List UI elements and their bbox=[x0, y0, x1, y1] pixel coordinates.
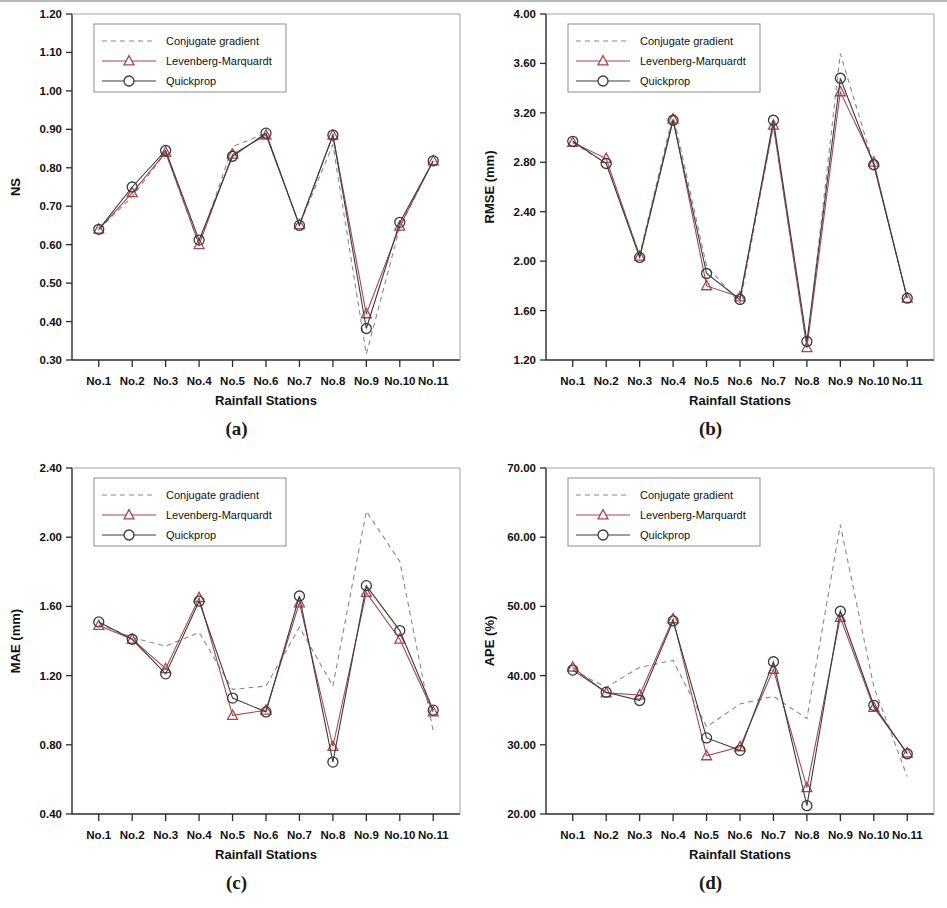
x-tick-label: No.9 bbox=[354, 829, 379, 841]
series-line-conjugate-gradient bbox=[573, 54, 907, 348]
x-tick-label: No.3 bbox=[153, 829, 178, 841]
x-tick-label: No.2 bbox=[120, 375, 145, 387]
x-tick-label: No.7 bbox=[287, 829, 312, 841]
x-tick-label: No.7 bbox=[761, 829, 786, 841]
y-tick-label: 0.40 bbox=[40, 808, 62, 820]
x-tick-label: No.6 bbox=[728, 375, 753, 387]
x-axis-title: Rainfall Stations bbox=[689, 847, 791, 862]
y-tick-label: 60.00 bbox=[507, 531, 536, 543]
legend-marker-circle-icon bbox=[598, 76, 608, 86]
x-tick-label: No.11 bbox=[892, 375, 923, 387]
x-tick-label: No.1 bbox=[86, 375, 112, 387]
x-tick-label: No.11 bbox=[418, 375, 449, 387]
x-tick-label: No.8 bbox=[320, 375, 346, 387]
x-tick-label: No.4 bbox=[187, 829, 213, 841]
y-tick-label: 1.00 bbox=[40, 85, 62, 97]
y-tick-label: 2.00 bbox=[40, 531, 62, 543]
y-tick-label: 0.70 bbox=[40, 200, 62, 212]
y-tick-label: 0.80 bbox=[40, 162, 62, 174]
figure-container: 0.300.400.500.600.700.800.901.001.101.20… bbox=[0, 0, 947, 908]
series-line-levenberg-marquardt bbox=[573, 92, 907, 348]
x-tick-label: No.2 bbox=[120, 829, 145, 841]
y-tick-label: 50.00 bbox=[507, 600, 536, 612]
x-tick-label: No.1 bbox=[86, 829, 112, 841]
y-tick-label: 1.60 bbox=[514, 305, 536, 317]
y-tick-label: 1.60 bbox=[40, 600, 62, 612]
chart-c-mae: 0.400.801.201.602.002.40MAE (mm)No.1No.2… bbox=[0, 454, 473, 874]
legend-label-levenberg-marquardt: Levenberg-Marquardt bbox=[166, 509, 272, 521]
y-axis-title: APE (%) bbox=[482, 616, 497, 667]
x-tick-label: No.10 bbox=[384, 829, 415, 841]
caption-b: (b) bbox=[474, 418, 947, 440]
series-line-conjugate-gradient bbox=[99, 133, 433, 354]
y-tick-label: 2.80 bbox=[514, 156, 536, 168]
x-tick-label: No.4 bbox=[661, 375, 687, 387]
y-tick-label: 1.10 bbox=[40, 46, 62, 58]
x-tick-label: No.9 bbox=[828, 829, 853, 841]
y-tick-label: 0.60 bbox=[40, 239, 62, 251]
panel-b: 1.201.602.002.402.803.203.604.00RMSE (mm… bbox=[474, 0, 947, 454]
series-line-quickprop bbox=[99, 586, 433, 763]
caption-c: (c) bbox=[0, 872, 473, 894]
legend-label-levenberg-marquardt: Levenberg-Marquardt bbox=[640, 509, 746, 521]
legend-marker-circle-icon bbox=[124, 530, 134, 540]
legend-label-conjugate-gradient: Conjugate gradient bbox=[640, 489, 733, 501]
x-tick-label: No.3 bbox=[627, 375, 652, 387]
y-axis-title: MAE (mm) bbox=[8, 609, 23, 673]
x-tick-label: No.6 bbox=[254, 375, 279, 387]
x-tick-label: No.6 bbox=[728, 829, 753, 841]
legend-label-levenberg-marquardt: Levenberg-Marquardt bbox=[166, 55, 272, 67]
x-tick-label: No.6 bbox=[254, 829, 279, 841]
panel-c: 0.400.801.201.602.002.40MAE (mm)No.1No.2… bbox=[0, 454, 473, 908]
x-tick-label: No.8 bbox=[794, 829, 820, 841]
x-tick-label: No.3 bbox=[627, 829, 652, 841]
x-tick-label: No.10 bbox=[858, 375, 889, 387]
x-tick-label: No.2 bbox=[594, 829, 619, 841]
x-tick-label: No.5 bbox=[220, 375, 246, 387]
series-line-levenberg-marquardt bbox=[99, 135, 433, 314]
x-tick-label: No.8 bbox=[794, 375, 820, 387]
series-line-quickprop bbox=[99, 133, 433, 328]
x-tick-label: No.1 bbox=[560, 375, 586, 387]
legend-label-conjugate-gradient: Conjugate gradient bbox=[640, 35, 733, 47]
y-tick-label: 0.50 bbox=[40, 277, 62, 289]
x-tick-label: No.5 bbox=[694, 375, 720, 387]
legend-label-quickprop: Quickprop bbox=[166, 75, 216, 87]
y-tick-label: 2.00 bbox=[514, 255, 536, 267]
y-tick-label: 40.00 bbox=[507, 670, 536, 682]
x-tick-label: No.7 bbox=[761, 375, 786, 387]
legend-label-conjugate-gradient: Conjugate gradient bbox=[166, 489, 259, 501]
legend-label-quickprop: Quickprop bbox=[640, 529, 690, 541]
x-tick-label: No.5 bbox=[694, 829, 720, 841]
y-tick-label: 30.00 bbox=[507, 739, 536, 751]
series-line-levenberg-marquardt bbox=[573, 618, 907, 788]
y-tick-label: 4.00 bbox=[514, 8, 536, 20]
x-tick-label: No.10 bbox=[858, 829, 889, 841]
x-tick-label: No.11 bbox=[892, 829, 923, 841]
chart-a-ns: 0.300.400.500.600.700.800.901.001.101.20… bbox=[0, 0, 473, 420]
y-axis-title: NS bbox=[8, 178, 23, 196]
chart-d-ape: 20.0030.0040.0050.0060.0070.00APE (%)No.… bbox=[474, 454, 947, 874]
panel-a: 0.300.400.500.600.700.800.901.001.101.20… bbox=[0, 0, 473, 454]
legend-label-quickprop: Quickprop bbox=[166, 529, 216, 541]
y-tick-label: 0.30 bbox=[40, 354, 62, 366]
y-tick-label: 20.00 bbox=[507, 808, 536, 820]
legend-label-conjugate-gradient: Conjugate gradient bbox=[166, 35, 259, 47]
x-tick-label: No.9 bbox=[828, 375, 853, 387]
legend-label-quickprop: Quickprop bbox=[640, 75, 690, 87]
x-axis-title: Rainfall Stations bbox=[215, 393, 317, 408]
y-tick-label: 2.40 bbox=[40, 462, 62, 474]
y-tick-label: 70.00 bbox=[507, 462, 536, 474]
y-tick-label: 0.40 bbox=[40, 316, 62, 328]
panel-d: 20.0030.0040.0050.0060.0070.00APE (%)No.… bbox=[474, 454, 947, 908]
x-tick-label: No.1 bbox=[560, 829, 586, 841]
legend-marker-circle-icon bbox=[598, 530, 608, 540]
x-tick-label: No.4 bbox=[187, 375, 213, 387]
y-tick-label: 2.40 bbox=[514, 206, 536, 218]
x-tick-label: No.5 bbox=[220, 829, 246, 841]
legend-label-levenberg-marquardt: Levenberg-Marquardt bbox=[640, 55, 746, 67]
series-line-levenberg-marquardt bbox=[99, 593, 433, 747]
x-tick-label: No.4 bbox=[661, 829, 687, 841]
legend-marker-circle-icon bbox=[124, 76, 134, 86]
series-line-conjugate-gradient bbox=[573, 525, 907, 777]
